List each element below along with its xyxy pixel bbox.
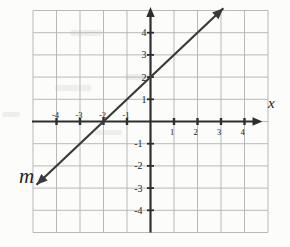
x-tick-label: -4 [52, 110, 60, 120]
x-tick-label: -2 [99, 110, 106, 120]
axes [32, 7, 263, 233]
y-tick-label: -3 [134, 183, 142, 194]
x-tick-label: 2 [193, 127, 197, 137]
x-axis-arrowhead [253, 117, 263, 125]
y-tick-label: 3 [142, 49, 147, 60]
line-graph-figure: -4-3-2-11234-4-3-2-11234 m x [0, 0, 290, 247]
y-tick-label: -1 [134, 138, 142, 149]
line-m [37, 8, 224, 185]
line-m-segment [37, 8, 224, 184]
scan-artifact [55, 85, 91, 91]
x-axis-label: x [268, 96, 275, 111]
coordinate-plane: -4-3-2-11234-4-3-2-11234 [0, 0, 290, 247]
y-tick-label: 4 [142, 27, 147, 38]
scan-artifact [95, 130, 122, 135]
x-tick-label: -1 [122, 110, 129, 120]
y-tick-label: -2 [134, 160, 142, 171]
y-tick-label: -4 [134, 205, 142, 216]
x-tick-label: 1 [170, 127, 174, 137]
x-tick-label: -3 [75, 110, 82, 120]
line-m-label: m [19, 166, 34, 187]
y-axis-arrowhead [146, 7, 154, 17]
y-tick-label: 1 [142, 94, 147, 105]
x-tick-label: 3 [217, 127, 221, 137]
scan-artifact [2, 112, 20, 117]
